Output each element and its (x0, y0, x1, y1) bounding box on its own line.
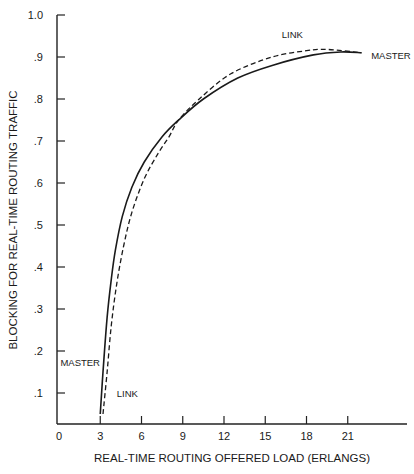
curve-label-link: LINK (117, 388, 139, 399)
blocking-chart: .1.2.3.4.5.6.7.8.91.0 036912151821 LINKM… (0, 0, 414, 474)
x-tick-label: 18 (300, 430, 312, 442)
x-tick-label: 12 (218, 430, 230, 442)
x-axis-title: REAL-TIME ROUTING OFFERED LOAD (ERLANGS) (94, 452, 370, 464)
y-tick-label: .6 (34, 177, 43, 189)
y-tick-label: .2 (34, 345, 43, 357)
series-master-line (100, 52, 361, 414)
x-tick-label: 9 (180, 430, 186, 442)
y-tick-label: .4 (34, 261, 43, 273)
y-tick-label: 1.0 (28, 9, 43, 21)
y-tick-label: .3 (34, 303, 43, 315)
y-tick-label: .9 (34, 51, 43, 63)
x-tick-label: 6 (138, 430, 144, 442)
curve-label-master: MASTER (371, 50, 411, 61)
y-tick-label: .5 (34, 219, 43, 231)
x-tick-label: 21 (342, 430, 354, 442)
y-tick-label: .1 (34, 387, 43, 399)
x-axis: 036912151821 (56, 416, 407, 442)
x-tick-label: 3 (97, 430, 103, 442)
curve-annotations: LINKMASTERMASTERLINK (60, 29, 410, 399)
y-tick-label: .7 (34, 135, 43, 147)
curve-label-link: LINK (282, 29, 304, 40)
x-tick-label: 15 (259, 430, 271, 442)
series-lines (100, 49, 361, 414)
y-tick-label: .8 (34, 93, 43, 105)
series-link-line (103, 49, 362, 414)
curve-label-master: MASTER (60, 357, 100, 368)
y-axis-title: BLOCKING FOR REAL-TIME ROUTING TRAFFIC (7, 90, 19, 349)
x-tick-label: 0 (56, 430, 62, 442)
